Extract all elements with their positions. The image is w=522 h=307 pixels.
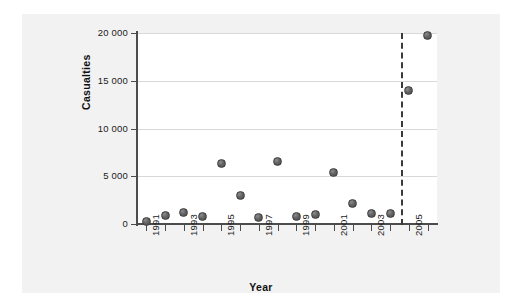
x-tick-label: 2001 [338,214,349,236]
x-tick-label: 1999 [300,214,311,236]
x-tick-label: 2005 [413,214,424,236]
x-tick-mark [278,225,279,231]
x-tick-label: 1995 [225,214,236,236]
x-tick-mark [390,225,391,231]
x-tick-label: 1997 [263,214,274,236]
y-tick-label-wrap: 20 000 [70,27,128,39]
x-tick-mark [146,225,147,231]
x-tick-mark [240,225,241,231]
x-tick-mark [428,225,429,231]
y-tick-mark [131,81,137,82]
data-point[interactable] [142,217,151,226]
y-tick-label: 0 [72,218,128,229]
y-tick-label: 10 000 [72,123,128,134]
data-point[interactable] [367,209,376,218]
y-tick-mark [131,33,137,34]
x-tick-mark [221,225,222,231]
x-tick-mark [203,225,204,231]
gridline-5000 [137,176,437,177]
x-tick-mark [315,225,316,231]
data-point[interactable] [161,211,170,220]
x-tick-label: 2003 [375,214,386,236]
x-axis-title: Year [0,281,522,293]
data-point[interactable] [236,191,245,200]
data-point[interactable] [179,208,188,217]
gridline-15000 [137,81,437,82]
gridline-20000 [137,33,437,34]
y-tick-label: 5 000 [72,170,128,181]
forecast-divider-line [401,33,403,225]
y-tick-mark [131,129,137,130]
y-tick-label-wrap: 10 000 [70,123,128,135]
plot-area [137,33,437,224]
y-tick-label: 20 000 [72,27,128,38]
y-tick-label-wrap: 5 000 [70,170,128,182]
y-tick-mark [131,224,137,225]
x-axis-line [136,223,438,225]
x-tick-mark [165,225,166,231]
x-tick-mark [259,225,260,231]
x-tick-mark [296,225,297,231]
x-tick-mark [371,225,372,231]
x-tick-mark [334,225,335,231]
data-point[interactable] [292,212,301,221]
y-tick-label-wrap: 0 [70,218,128,230]
y-tick-label: 15 000 [72,75,128,86]
x-tick-label: 1991 [150,214,161,236]
x-tick-mark [353,225,354,231]
y-tick-mark [131,176,137,177]
data-point[interactable] [386,209,395,218]
x-tick-mark [184,225,185,231]
y-tick-label-wrap: 15 000 [70,75,128,87]
x-tick-mark [409,225,410,231]
chart-figure: Casualties Year 05 00010 00015 00020 000… [0,0,522,307]
gridline-10000 [137,129,437,130]
